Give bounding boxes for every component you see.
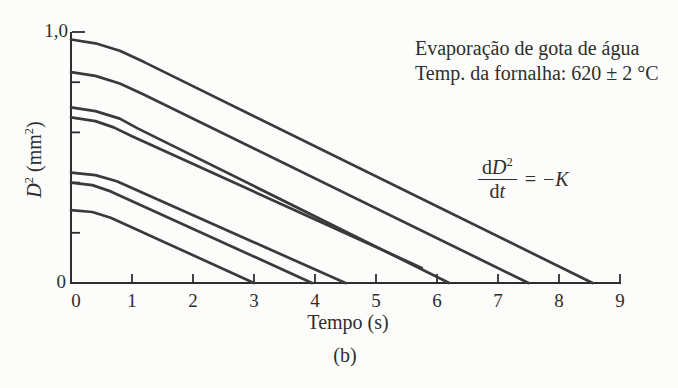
rate-equation: dD2 dt = −K xyxy=(478,157,570,202)
y-axis-label-exponent: 2 xyxy=(22,177,36,183)
equation-equals: = xyxy=(525,168,537,190)
equation-K: K xyxy=(555,168,569,190)
x-tick-label-0: 0 xyxy=(71,290,81,311)
annotation-condition: Temp. da fornalha: 620 ± 2 °C xyxy=(415,61,659,86)
equation-num-d: d xyxy=(482,156,492,178)
annotation-title: Evaporação de gota de água xyxy=(415,36,659,61)
x-tick-label-1: 1 xyxy=(127,290,137,311)
equation-num-D: D xyxy=(492,156,506,178)
y-axis-label-unit-close: ) xyxy=(23,121,45,128)
curve-gota-2 xyxy=(71,72,529,283)
evaporation-chart-figure: 0123456789 1,0 0 D2 (mm2) Evaporação de … xyxy=(0,0,678,388)
equation-den-d: d xyxy=(490,180,500,202)
x-tick-label-8: 8 xyxy=(554,290,564,311)
y-axis-label-unit: (mm xyxy=(23,134,45,177)
equation-num-exponent: 2 xyxy=(506,155,512,169)
curve-gota-4 xyxy=(71,117,422,268)
equation-den-t: t xyxy=(500,180,506,202)
equation-denominator: dt xyxy=(490,180,506,202)
equation-rhs: = −K xyxy=(525,168,570,191)
x-tick-label-2: 2 xyxy=(188,290,198,311)
curve-gota-5 xyxy=(71,173,346,283)
x-tick-label-4: 4 xyxy=(310,290,320,311)
figure-caption: (b) xyxy=(295,344,395,367)
y-tick-label-zero: 0 xyxy=(38,271,66,293)
x-tick-label-9: 9 xyxy=(615,290,625,311)
chart-annotation-block: Evaporação de gota de água Temp. da forn… xyxy=(415,36,659,86)
x-tick-label-7: 7 xyxy=(493,290,503,311)
y-axis-label: D2 (mm2) xyxy=(23,90,46,230)
equation-fraction: dD2 dt xyxy=(478,157,517,202)
x-tick-label-3: 3 xyxy=(249,290,259,311)
equation-minus: − xyxy=(543,168,555,190)
y-axis-label-symbol: D xyxy=(23,183,45,197)
equation-numerator: dD2 xyxy=(478,157,517,180)
x-tick-label-5: 5 xyxy=(371,290,381,311)
y-axis-label-unit-exponent: 2 xyxy=(22,128,36,134)
curve-gota-7 xyxy=(71,210,254,283)
x-tick-label-6: 6 xyxy=(432,290,442,311)
x-axis-label: Tempo (s) xyxy=(278,311,418,334)
y-tick-label-max: 1,0 xyxy=(26,20,68,42)
